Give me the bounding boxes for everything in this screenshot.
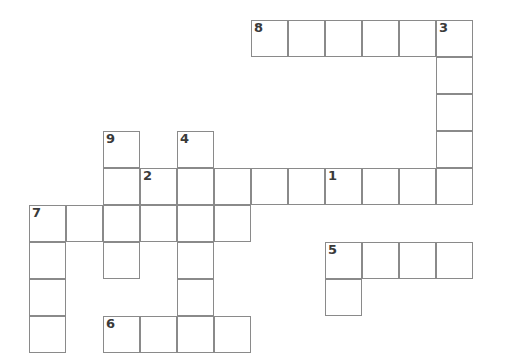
- crossword-cell[interactable]: [29, 242, 66, 279]
- clue-number-6: 6: [106, 317, 115, 331]
- crossword-cell[interactable]: [103, 242, 140, 279]
- crossword-cell[interactable]: [325, 20, 362, 57]
- crossword-cell[interactable]: [436, 168, 473, 205]
- clue-number-8: 8: [254, 21, 263, 35]
- crossword-cell[interactable]: [251, 168, 288, 205]
- crossword-cell[interactable]: [436, 94, 473, 131]
- crossword-cell[interactable]: [288, 168, 325, 205]
- clue-number-2: 2: [143, 169, 152, 183]
- crossword-cell[interactable]: [214, 205, 251, 242]
- crossword-cell[interactable]: [214, 168, 251, 205]
- clue-number-4: 4: [180, 132, 189, 146]
- crossword-cell-numbered-1[interactable]: 1: [325, 168, 362, 205]
- crossword-cell[interactable]: [399, 20, 436, 57]
- crossword-cell[interactable]: [177, 205, 214, 242]
- crossword-cell-numbered-7[interactable]: 7: [29, 205, 66, 242]
- crossword-cell[interactable]: [325, 279, 362, 316]
- crossword-cell-numbered-2[interactable]: 2: [140, 168, 177, 205]
- crossword-cell-numbered-9[interactable]: 9: [103, 131, 140, 168]
- crossword-cell[interactable]: [399, 168, 436, 205]
- crossword-cell[interactable]: [436, 131, 473, 168]
- clue-number-1: 1: [328, 169, 337, 183]
- clue-number-7: 7: [32, 206, 41, 220]
- crossword-cell-numbered-4[interactable]: 4: [177, 131, 214, 168]
- crossword-cell-numbered-6[interactable]: 6: [103, 316, 140, 353]
- crossword-cell[interactable]: [140, 205, 177, 242]
- crossword-cell[interactable]: [436, 242, 473, 279]
- crossword-cell[interactable]: [140, 316, 177, 353]
- crossword-cell[interactable]: [177, 316, 214, 353]
- crossword-cell[interactable]: [362, 242, 399, 279]
- crossword-cell[interactable]: [103, 168, 140, 205]
- crossword-cell[interactable]: [362, 20, 399, 57]
- crossword-cell-numbered-5[interactable]: 5: [325, 242, 362, 279]
- crossword-cell[interactable]: [66, 205, 103, 242]
- crossword-cell-numbered-8[interactable]: 8: [251, 20, 288, 57]
- crossword-cell-numbered-3[interactable]: 3: [436, 20, 473, 57]
- crossword-cell[interactable]: [29, 279, 66, 316]
- crossword-cell[interactable]: [436, 57, 473, 94]
- crossword-cell[interactable]: [214, 316, 251, 353]
- clue-number-3: 3: [439, 21, 448, 35]
- crossword-cell[interactable]: [399, 242, 436, 279]
- clue-number-9: 9: [106, 132, 115, 146]
- crossword-cell[interactable]: [177, 242, 214, 279]
- crossword-cell[interactable]: [29, 316, 66, 353]
- clue-number-5: 5: [328, 243, 337, 257]
- crossword-cell[interactable]: [362, 168, 399, 205]
- crossword-cell[interactable]: [177, 168, 214, 205]
- crossword-cell[interactable]: [177, 279, 214, 316]
- crossword-cell[interactable]: [103, 205, 140, 242]
- crossword-cell[interactable]: [288, 20, 325, 57]
